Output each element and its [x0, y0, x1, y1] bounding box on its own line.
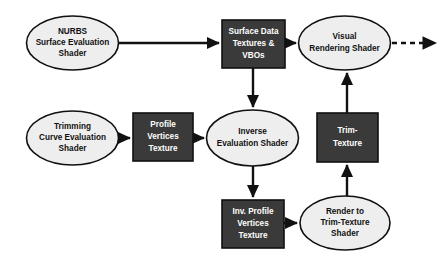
nurbs-shader-label-line3: Shader — [59, 49, 88, 58]
node-inverse-evaluation-shader[interactable]: Inverse Evaluation Shader — [207, 110, 299, 166]
node-inv-profile-vertices-texture[interactable]: Inv. Profile Vertices Texture — [222, 200, 284, 248]
trimming-curve-label-line2: Curve Evaluation — [39, 133, 106, 142]
nurbs-shader-label-line2: Surface Evaluation — [36, 38, 110, 47]
pipeline-diagram: NURBS Surface Evaluation Shader Surface … — [0, 0, 448, 260]
trimming-curve-label-line1: Trimming — [54, 122, 91, 131]
render-trim-label-line1: Render to — [326, 207, 364, 216]
inv-profile-label-line3: Texture — [239, 231, 268, 240]
profile-vertices-label-line2: Vertices — [147, 132, 179, 141]
trimming-curve-label-line3: Shader — [59, 144, 88, 153]
node-visual-rendering-shader[interactable]: Visual Rendering Shader — [299, 16, 391, 70]
inverse-evaluation-label-line2: Evaluation Shader — [217, 139, 289, 148]
node-trimming-curve-evaluation-shader[interactable]: Trimming Curve Evaluation Shader — [27, 111, 119, 165]
inverse-evaluation-label-line1: Inverse — [238, 127, 267, 136]
visual-rendering-label-line2: Rendering Shader — [309, 44, 380, 53]
visual-rendering-ellipse — [299, 16, 391, 70]
profile-vertices-label-line1: Profile — [150, 120, 176, 129]
inverse-evaluation-ellipse — [207, 110, 299, 166]
surface-data-label-line2: Textures & — [233, 39, 275, 48]
render-trim-label-line2: Trim-Texture — [321, 218, 370, 227]
inv-profile-label-line2: Vertices — [237, 219, 269, 228]
trim-texture-label-line1: Trim- — [337, 126, 357, 135]
visual-rendering-label-line1: Visual — [333, 32, 357, 41]
node-surface-data-textures-vbos[interactable]: Surface Data Textures & VBOs — [222, 20, 285, 68]
inv-profile-label-line1: Inv. Profile — [232, 207, 274, 216]
render-trim-label-line3: Shader — [331, 229, 360, 238]
diagram-canvas: NURBS Surface Evaluation Shader Surface … — [0, 0, 448, 260]
node-render-to-trim-texture-shader[interactable]: Render to Trim-Texture Shader — [300, 196, 390, 250]
trim-texture-box — [317, 113, 378, 162]
node-trim-texture[interactable]: Trim- Texture — [317, 113, 378, 162]
node-nurbs-surface-evaluation-shader[interactable]: NURBS Surface Evaluation Shader — [27, 16, 119, 70]
surface-data-label-line3: VBOs — [242, 51, 265, 60]
surface-data-label-line1: Surface Data — [228, 27, 279, 36]
nurbs-shader-label-line1: NURBS — [58, 27, 88, 36]
trim-texture-label-line2: Texture — [333, 139, 362, 148]
profile-vertices-label-line3: Texture — [149, 144, 178, 153]
node-profile-vertices-texture[interactable]: Profile Vertices Texture — [133, 113, 193, 161]
